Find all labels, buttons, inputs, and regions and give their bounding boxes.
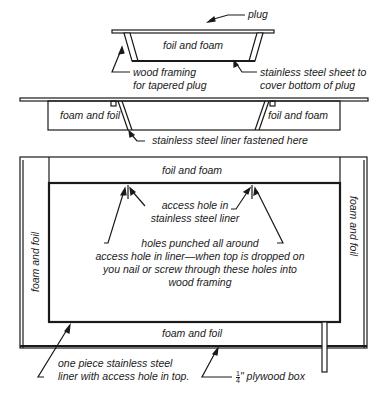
box-left-label: foam and foil — [29, 232, 42, 292]
plywood-label: 14" plywood box — [236, 370, 305, 384]
holes-label-line3: you nail or screw through these holes in… — [80, 263, 320, 276]
fastened-label: stainless steel liner fastened here — [152, 134, 308, 147]
wood-framing-label-line2: for tapered plug — [133, 79, 207, 92]
holes-label-line4: wood framing — [80, 276, 320, 289]
plywood-text: " plywood box — [240, 370, 305, 382]
box-top-label: foil and foam — [162, 164, 222, 177]
plug-label: plug — [248, 8, 268, 21]
holes-label-line2: access hole in liner—when top is dropped… — [80, 250, 320, 263]
middle-left-label: foam and foil — [60, 109, 120, 122]
liner-label-line2: liner with access hole in top. — [58, 370, 189, 383]
liner-label-line1: one piece stainless steel — [58, 357, 172, 370]
wood-framing-label-line1: wood framing — [133, 66, 196, 79]
box-right-label: foam and foil — [347, 196, 360, 256]
holes-label-line1: holes punched all around — [80, 237, 320, 250]
access-hole-label-line2: stainless steel liner — [140, 212, 250, 225]
steel-sheet-label-line2: cover bottom of plug — [260, 79, 355, 92]
access-hole-label-line1: access hole in — [140, 199, 250, 212]
plug-inner-label: foil and foam — [163, 39, 223, 52]
middle-right-label: foil and foam — [268, 109, 328, 122]
box-bottom-label: foam and foil — [162, 327, 222, 340]
steel-sheet-label-line1: stainless steel sheet to — [260, 66, 366, 79]
